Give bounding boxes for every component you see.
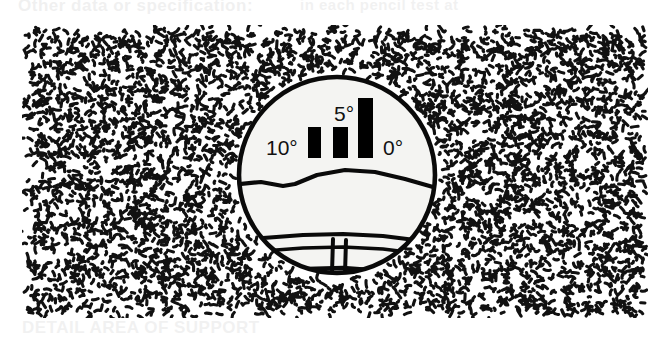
scale-label-10deg: 10° [266,136,298,159]
figure-root: Other data or specification: in each pen… [0,0,664,340]
range-bar-5 [333,127,348,158]
bleed-through-text-bottom: DETAIL AREA OF SUPPORT [22,318,260,338]
range-bar-0 [358,98,373,158]
bleed-through-text-top: Other data or specification: [18,0,253,16]
scope-view: 10°5°0° [233,71,441,279]
range-bar-10 [308,127,321,158]
scale-label-5deg: 5° [334,102,354,125]
scope-svg: 10°5°0° [233,71,441,279]
scale-label-0deg: 0° [383,136,403,159]
bleed-through-text-top-right: in each pencil test at [300,0,459,13]
